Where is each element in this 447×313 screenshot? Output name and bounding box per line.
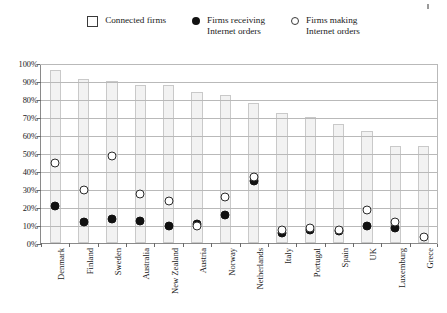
y-axis-tick: [37, 64, 41, 65]
chart-area: 100%90%80%70%60%50%40%30%20%10%0%: [8, 64, 438, 244]
x-axis-label-finland: Finland: [86, 248, 95, 274]
chart-legend: Connected firms Firms receiving Internet…: [0, 14, 447, 54]
y-axis-tick: [37, 154, 41, 155]
gridline: [41, 118, 438, 119]
legend-label-firms-receiving: Firms receiving Internet orders: [207, 14, 265, 36]
marker-receiving-norway: [221, 211, 230, 220]
marker-making-austria: [192, 221, 201, 230]
filled-circle-icon: [192, 17, 200, 25]
x-axis-tick: [296, 243, 297, 247]
gridline: [41, 82, 438, 83]
chart-page: Connected firms Firms receiving Internet…: [0, 0, 447, 313]
x-axis-tick: [437, 243, 438, 247]
marker-making-australia: [136, 189, 145, 198]
y-axis-tick-label: 10%: [23, 222, 38, 231]
x-axis-tick: [410, 243, 411, 247]
gridline: [41, 154, 438, 155]
marker-making-italy: [278, 225, 287, 234]
gridline: [41, 64, 438, 65]
y-axis-tick: [37, 190, 41, 191]
y-axis-tick-label: 60%: [23, 132, 38, 141]
marker-receiving-australia: [136, 216, 145, 225]
y-axis-tick: [37, 136, 41, 137]
x-axis-tick: [353, 243, 354, 247]
y-axis-tick-label: 80%: [23, 96, 38, 105]
marker-making-finland: [79, 185, 88, 194]
x-axis-tick: [268, 243, 269, 247]
y-axis-tick-label: 50%: [23, 150, 38, 159]
y-axis-tick: [37, 172, 41, 173]
y-axis-tick-label: 40%: [23, 168, 38, 177]
x-axis-label-denmark: Denmark: [57, 248, 66, 280]
marker-making-luxemburg: [391, 218, 400, 227]
bar-denmark: [50, 70, 61, 243]
square-outline-icon: [87, 16, 98, 27]
x-axis-label-portugal: Portugal: [313, 248, 322, 277]
y-axis-tick: [37, 82, 41, 83]
x-axis-tick: [183, 243, 184, 247]
bar-new-zealand: [163, 85, 174, 243]
legend-item-connected-firms: Connected firms: [87, 14, 166, 27]
bar-grece: [418, 146, 429, 243]
x-axis-label-italy: Italy: [284, 248, 293, 264]
x-axis-tick: [126, 243, 127, 247]
y-axis-tick-label: 90%: [23, 78, 38, 87]
x-axis-label-luxemburg: Luxemburg: [398, 248, 407, 288]
y-axis-tick: [37, 118, 41, 119]
gridline: [41, 226, 438, 227]
legend-label-firms-making: Firms making Internet orders: [306, 14, 360, 36]
open-circle-icon: [291, 17, 299, 25]
scan-artifact-speck: [427, 4, 429, 9]
x-axis-label-uk: UK: [369, 248, 378, 260]
legend-item-firms-making: Firms making Internet orders: [291, 14, 360, 36]
y-axis-tick: [37, 208, 41, 209]
y-axis-tick-label: 100%: [18, 60, 38, 69]
marker-receiving-new-zealand: [164, 221, 173, 230]
y-axis-labels: 100%90%80%70%60%50%40%30%20%10%0%: [8, 64, 38, 244]
x-axis-tick: [211, 243, 212, 247]
marker-receiving-uk: [363, 221, 372, 230]
legend-item-firms-receiving: Firms receiving Internet orders: [192, 14, 265, 36]
y-axis-tick-label: 30%: [23, 186, 38, 195]
x-axis-label-australia: Australia: [142, 248, 151, 280]
marker-making-netherlands: [249, 173, 258, 182]
marker-receiving-sweden: [107, 214, 116, 223]
legend-label-connected-firms: Connected firms: [105, 14, 166, 26]
x-axis-tick: [41, 243, 42, 247]
y-axis-tick: [37, 100, 41, 101]
marker-receiving-denmark: [51, 202, 60, 211]
marker-making-spain: [334, 225, 343, 234]
y-axis-tick-label: 70%: [23, 114, 38, 123]
x-axis-labels: DenmarkFinlandSwedenAustraliaNew Zealand…: [40, 248, 438, 312]
x-axis-label-norway: Norway: [228, 248, 237, 276]
gridline: [41, 172, 438, 173]
plot-area: [40, 64, 438, 244]
y-axis-tick: [37, 226, 41, 227]
marker-making-new-zealand: [164, 196, 173, 205]
marker-making-portugal: [306, 223, 315, 232]
x-axis-label-austria: Austria: [199, 248, 208, 273]
x-axis-tick: [381, 243, 382, 247]
marker-making-norway: [221, 193, 230, 202]
gridline: [41, 136, 438, 137]
x-axis-tick: [240, 243, 241, 247]
gridline: [41, 190, 438, 191]
x-axis-tick: [98, 243, 99, 247]
x-axis-tick: [69, 243, 70, 247]
x-axis-label-grece: Grece: [426, 248, 435, 269]
y-axis-tick-label: 20%: [23, 204, 38, 213]
x-axis-tick: [325, 243, 326, 247]
marker-making-grece: [419, 232, 428, 241]
x-axis-label-spain: Spain: [341, 248, 350, 268]
gridline: [41, 100, 438, 101]
gridline: [41, 208, 438, 209]
x-axis-label-sweden: Sweden: [114, 248, 123, 275]
marker-making-sweden: [107, 151, 116, 160]
x-axis-label-netherlands: Netherlands: [256, 248, 265, 290]
marker-receiving-finland: [79, 218, 88, 227]
x-axis-tick: [154, 243, 155, 247]
bar-italy: [276, 113, 287, 243]
marker-making-uk: [363, 205, 372, 214]
marker-making-denmark: [51, 158, 60, 167]
x-axis-label-new-zealand: New Zealand: [171, 248, 180, 294]
